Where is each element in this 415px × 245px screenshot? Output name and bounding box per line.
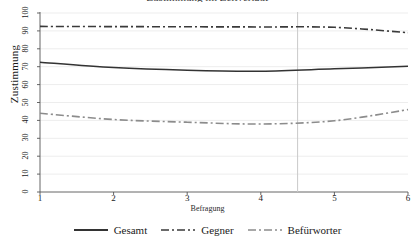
legend-item[interactable]: Gesamt xyxy=(74,224,148,236)
chart-legend: GesamtGegnerBefürworter xyxy=(0,224,415,236)
legend-label: Befürworter xyxy=(288,224,342,236)
legend-label: Gesamt xyxy=(114,224,148,236)
legend-item[interactable]: Gegner xyxy=(161,224,233,236)
legend-swatch-dash-dot xyxy=(161,225,195,235)
legend-label: Gegner xyxy=(201,224,233,236)
legend-swatch-dash-dot xyxy=(248,225,282,235)
series-line-gegner xyxy=(40,26,408,32)
legend-item[interactable]: Befürworter xyxy=(248,224,342,236)
legend-swatch-solid xyxy=(74,225,108,235)
line-chart: Zustimmung im Zeitverlauf Zustimmung 010… xyxy=(0,0,415,245)
plot-area xyxy=(0,0,415,245)
series-line-befürworter xyxy=(40,110,408,124)
